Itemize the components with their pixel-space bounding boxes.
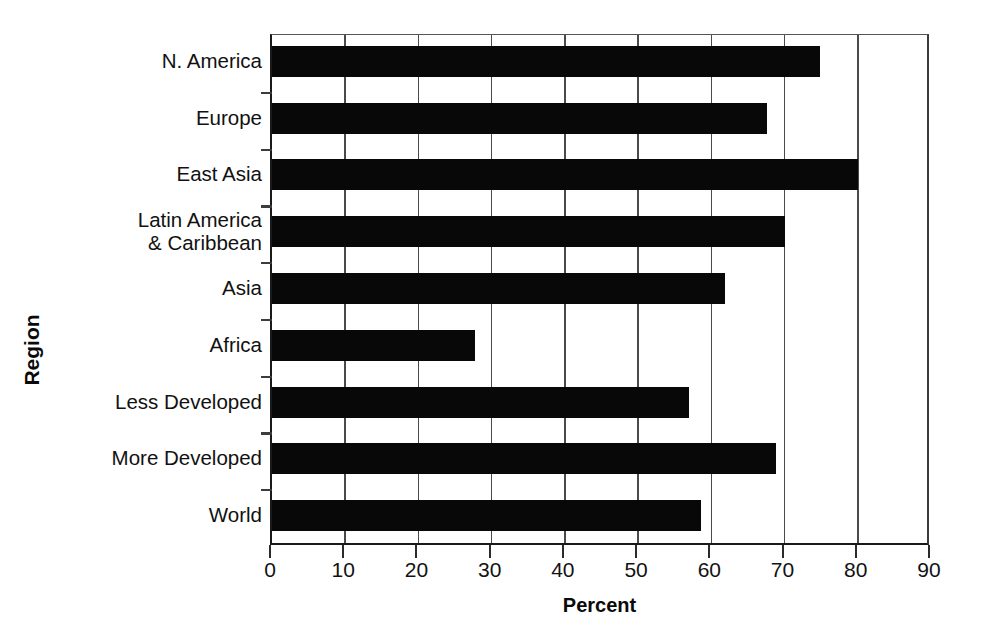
- x-axis-tick-70: [782, 545, 784, 558]
- x-axis-tick-40: [562, 545, 564, 558]
- y-axis-tick: [261, 489, 272, 491]
- category-label: World: [60, 503, 262, 526]
- x-axis-tick-label: 40: [551, 558, 574, 582]
- x-axis-tick-label: 10: [332, 558, 355, 582]
- y-axis-tick: [261, 319, 272, 321]
- x-axis-tick-60: [708, 545, 710, 558]
- bar: [272, 330, 475, 361]
- x-axis-tick-label: 90: [917, 558, 940, 582]
- category-label: Africa: [60, 333, 262, 356]
- x-axis-tick-20: [415, 545, 417, 558]
- plot-area: [270, 34, 929, 545]
- y-axis-tick: [261, 262, 272, 264]
- x-axis-tick-label: 70: [771, 558, 794, 582]
- category-label: Less Developed: [60, 390, 262, 413]
- bars-group: [272, 35, 927, 543]
- bar-chart-figure: Region N. AmericaEuropeEast AsiaLatin Am…: [0, 0, 983, 637]
- x-axis-ticks: [270, 545, 929, 559]
- y-axis-tick-labels: N. AmericaEuropeEast AsiaLatin America &…: [60, 34, 262, 545]
- bar: [272, 387, 689, 418]
- bar: [272, 46, 820, 77]
- x-axis-tick-labels: 0102030405060708090: [270, 558, 929, 588]
- x-axis-tick-0: [269, 545, 271, 558]
- x-axis-tick-90: [928, 545, 930, 558]
- x-axis-tick-10: [342, 545, 344, 558]
- bar: [272, 500, 701, 531]
- bar: [272, 273, 725, 304]
- x-axis-tick-label: 30: [478, 558, 501, 582]
- y-axis-tick: [261, 92, 272, 94]
- y-axis-tick: [261, 432, 272, 434]
- bar: [272, 443, 776, 474]
- category-label: N. America: [60, 49, 262, 72]
- bar: [272, 103, 767, 134]
- x-axis-tick-80: [855, 545, 857, 558]
- x-axis-title: Percent: [270, 594, 929, 617]
- bar: [272, 159, 858, 190]
- category-label: East Asia: [60, 162, 262, 185]
- y-axis-tick: [261, 205, 272, 207]
- bar: [272, 216, 785, 247]
- y-axis-tick: [261, 149, 272, 151]
- y-axis-title-label: Region: [20, 314, 44, 385]
- y-axis-tick: [261, 376, 272, 378]
- x-axis-tick-label: 60: [698, 558, 721, 582]
- category-label: Asia: [60, 276, 262, 299]
- x-axis-tick-label: 20: [405, 558, 428, 582]
- x-axis-tick-label: 50: [624, 558, 647, 582]
- category-label: Europe: [60, 106, 262, 129]
- x-axis-tick-label: 80: [844, 558, 867, 582]
- x-axis-tick-30: [489, 545, 491, 558]
- category-label: Latin America & Caribbean: [60, 208, 262, 254]
- x-axis-tick-label: 0: [264, 558, 276, 582]
- category-label: More Developed: [60, 446, 262, 469]
- x-axis-tick-50: [635, 545, 637, 558]
